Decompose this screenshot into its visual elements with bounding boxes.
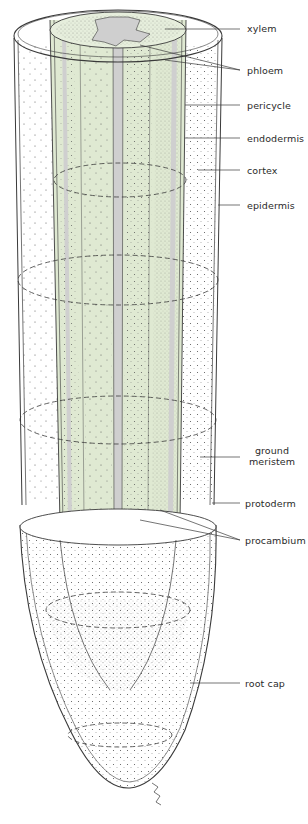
label-xylem: xylem (247, 23, 276, 34)
label-ground-meristem: ground meristem (242, 445, 302, 467)
label-cortex: cortex (247, 165, 278, 176)
label-pericycle: pericycle (247, 100, 291, 111)
root-cap (20, 509, 216, 805)
label-root-cap: root cap (245, 678, 285, 689)
label-ground-meristem-line1: ground (242, 445, 302, 456)
label-ground-meristem-line2: meristem (242, 456, 302, 467)
vascular-cylinder (50, 18, 186, 542)
label-epidermis: epidermis (247, 200, 295, 211)
root-tip-diagram (0, 0, 308, 824)
label-phloem: phloem (247, 65, 283, 76)
label-protoderm: protoderm (245, 498, 296, 509)
label-procambium: procambium (245, 535, 306, 546)
label-endodermis: endodermis (247, 133, 304, 144)
